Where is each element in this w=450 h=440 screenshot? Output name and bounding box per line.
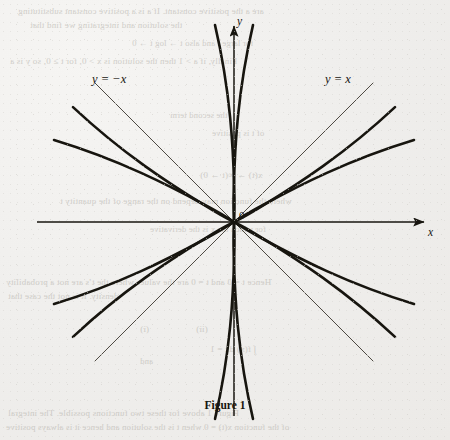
y-axis-label: y	[237, 15, 242, 27]
figure-page: are a the positive constant. If a is a p…	[0, 0, 450, 440]
x-axis-label: x	[428, 226, 433, 238]
hyperbola-branch-upper-left	[73, 181, 305, 419]
origin-label: 0	[239, 209, 245, 221]
origin-point	[232, 220, 236, 224]
figure-caption: Figure 1	[0, 399, 450, 411]
figure-1-graph	[0, 0, 450, 440]
hyperbola-branch-lower-right	[163, 25, 395, 263]
asymptote-label-y-equals-minus-x: y = −x	[92, 72, 126, 87]
hyperbola-branch-upper-right	[73, 25, 305, 263]
hyperbola-branch-lower-left	[163, 181, 395, 419]
asymptote-label-y-equals-x: y = x	[325, 72, 351, 87]
